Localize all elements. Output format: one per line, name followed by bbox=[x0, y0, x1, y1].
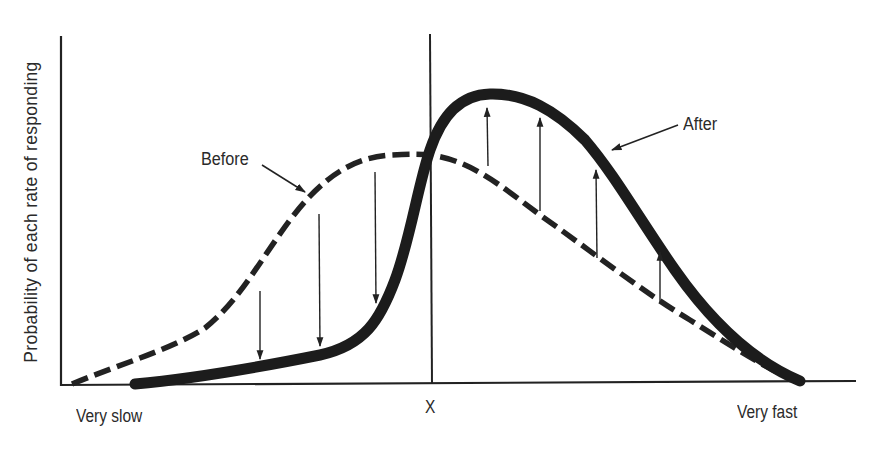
criterion-line bbox=[430, 34, 432, 384]
chart-canvas bbox=[0, 0, 873, 451]
down-arrow-3 bbox=[375, 172, 376, 303]
after-curve bbox=[135, 94, 800, 384]
up-arrow-3 bbox=[596, 170, 597, 258]
x-tick-criterion: X bbox=[425, 397, 435, 418]
down-arrow-2 bbox=[319, 214, 320, 346]
x-tick-very-slow: Very slow bbox=[76, 406, 142, 427]
after-pointer bbox=[612, 125, 678, 150]
up-arrow-1 bbox=[487, 108, 488, 166]
x-tick-very-fast: Very fast bbox=[737, 402, 797, 423]
before-pointer bbox=[262, 165, 305, 192]
after-label: After bbox=[683, 114, 717, 135]
before-label: Before bbox=[201, 149, 249, 170]
y-axis-label: Probability of each rate of responding bbox=[21, 61, 42, 362]
